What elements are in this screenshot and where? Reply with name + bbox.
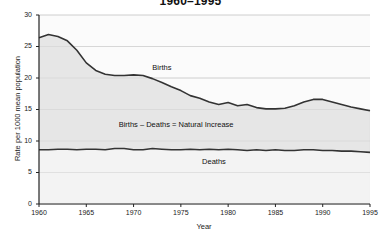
plot-area [0,0,381,237]
x-tick-label: 1965 [66,209,106,216]
plot-svg [0,0,381,237]
x-tick-label: 1985 [255,209,295,216]
x-axis-title: Year [38,222,370,231]
annotation-2: Deaths [202,157,226,166]
y-tick-label: 5 [10,168,32,175]
x-tick-label: 1980 [208,209,248,216]
y-tick-label: 15 [10,105,32,112]
chart-title: 1960–1995 [0,0,381,8]
annotation-1: Births – Deaths = Natural Increase [119,120,234,129]
y-tick-label: 30 [10,11,32,18]
vital-statistics-chart: 1960–1995 Rate per 1000 mean population … [0,0,381,237]
x-tick-label: 1990 [303,209,343,216]
x-tick-label: 1960 [19,209,59,216]
x-tick-label: 1970 [114,209,154,216]
y-tick-label: 20 [10,74,32,81]
x-tick-label: 1975 [161,209,201,216]
x-tick-label: 1995 [350,209,381,216]
y-tick-label: 10 [10,137,32,144]
annotation-0: Births [152,63,171,72]
y-tick-label: 25 [10,42,32,49]
y-tick-label: 0 [10,200,32,207]
